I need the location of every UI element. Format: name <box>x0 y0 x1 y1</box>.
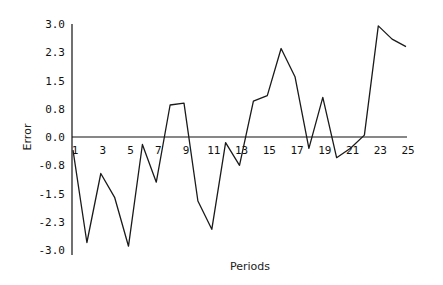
y-tick-label: 2.3 <box>45 46 65 59</box>
y-tick-label: -1.5 <box>39 188 66 201</box>
y-axis: 3.02.31.50.80.0-0.8-1.5-2.3-3.0 <box>39 18 73 257</box>
x-axis-label: Periods <box>230 260 270 273</box>
y-tick-label: 0.8 <box>45 103 65 116</box>
x-tick-label: 11 <box>207 144 220 157</box>
y-tick-label: -0.8 <box>39 159 66 172</box>
x-tick-label: 3 <box>99 144 106 157</box>
x-tick-label: 17 <box>290 144 303 157</box>
y-tick-label: 3.0 <box>45 18 65 31</box>
error-line <box>73 26 406 246</box>
y-tick-label: -3.0 <box>39 244 66 257</box>
x-tick-label: 15 <box>263 144 276 157</box>
y-tick-label: 1.5 <box>45 75 65 88</box>
error-line-chart: 3.02.31.50.80.0-0.8-1.5-2.3-3.0 13579111… <box>0 0 443 285</box>
x-tick-label: 5 <box>127 144 134 157</box>
x-tick-label: 25 <box>401 144 414 157</box>
y-tick-label: 0.0 <box>45 131 65 144</box>
x-tick-label: 9 <box>183 144 190 157</box>
x-tick-label: 23 <box>374 144 387 157</box>
y-axis-label: Error <box>21 123 34 150</box>
x-tick-label: 19 <box>318 144 331 157</box>
error-series <box>73 26 406 246</box>
y-tick-label: -2.3 <box>39 216 66 229</box>
